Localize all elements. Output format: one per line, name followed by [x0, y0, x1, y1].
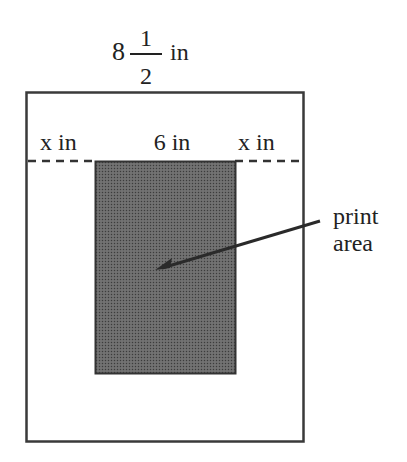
page-width-numerator: 1: [140, 25, 152, 51]
right-margin-label: x in: [238, 129, 275, 155]
print-width-label: 6 in: [154, 129, 191, 155]
page-width-denominator: 2: [140, 63, 152, 89]
page-width-whole: 8: [112, 37, 125, 66]
left-margin-label: x in: [40, 129, 77, 155]
print-area-diagram: 8 1 2 in x in 6 in x in print area: [0, 0, 407, 462]
page-width-unit: in: [170, 39, 189, 65]
callout-label-print: print: [333, 203, 379, 229]
callout-label-area: area: [333, 230, 373, 256]
